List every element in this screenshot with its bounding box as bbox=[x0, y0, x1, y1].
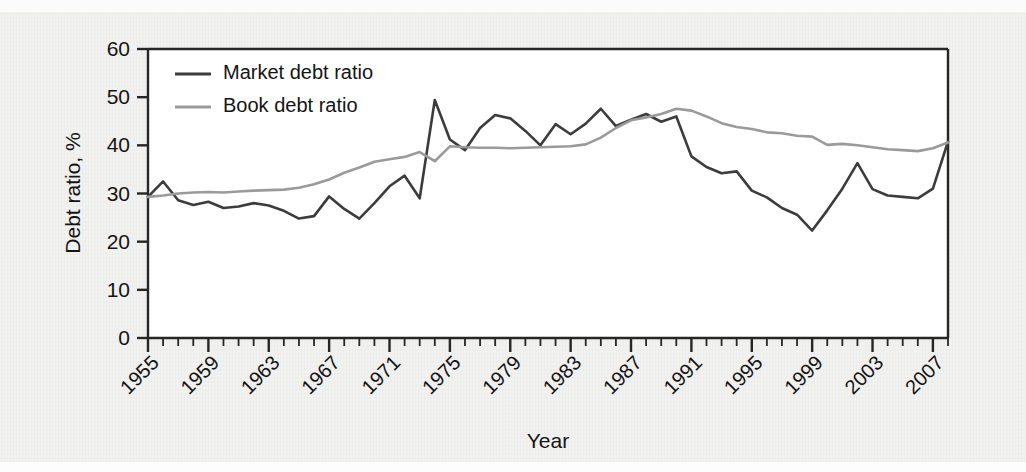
x-tick-label: 1959 bbox=[176, 351, 223, 398]
x-tick-label: 2007 bbox=[901, 351, 948, 398]
x-tick-label: 1971 bbox=[357, 351, 404, 398]
x-tick-label: 1983 bbox=[538, 351, 585, 398]
x-tick-label: 1975 bbox=[418, 351, 465, 398]
x-tick-label: 1979 bbox=[478, 351, 525, 398]
legend-label: Book debt ratio bbox=[223, 94, 358, 116]
y-axis: 0102030405060 bbox=[107, 37, 148, 349]
plot-area-background bbox=[148, 49, 948, 338]
x-tick-label: 1967 bbox=[297, 351, 344, 398]
legend-label: Market debt ratio bbox=[223, 61, 373, 83]
y-tick-label: 20 bbox=[107, 230, 130, 253]
y-tick-label: 30 bbox=[107, 182, 130, 205]
x-axis: 1955195919631967197119751979198319871991… bbox=[116, 338, 948, 398]
x-tick-label: 1991 bbox=[659, 351, 706, 398]
figure-container: 0102030405060 19551959196319671971197519… bbox=[0, 0, 1026, 472]
x-tick-label: 1987 bbox=[599, 351, 646, 398]
y-tick-label: 10 bbox=[107, 278, 130, 301]
y-axis-title: Debt ratio, % bbox=[61, 132, 84, 253]
x-tick-label: 1995 bbox=[720, 351, 767, 398]
y-tick-label: 40 bbox=[107, 133, 130, 156]
y-tick-label: 0 bbox=[118, 326, 130, 349]
y-tick-label: 50 bbox=[107, 85, 130, 108]
x-axis-title: Year bbox=[527, 429, 569, 452]
x-tick-label: 1963 bbox=[237, 351, 284, 398]
debt-ratio-line-chart: 0102030405060 19551959196319671971197519… bbox=[0, 0, 1026, 472]
x-tick-label: 1999 bbox=[780, 351, 827, 398]
x-tick-label: 1955 bbox=[116, 351, 163, 398]
x-tick-label: 2003 bbox=[840, 351, 887, 398]
y-tick-label: 60 bbox=[107, 37, 130, 60]
